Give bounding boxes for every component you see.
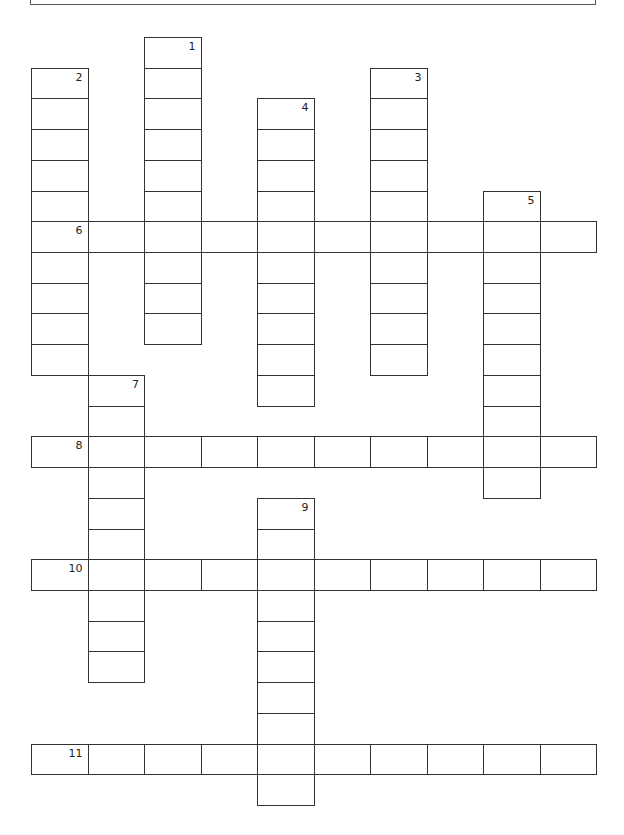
crossword-cell[interactable]	[483, 559, 541, 591]
crossword-cell[interactable]	[483, 406, 541, 438]
crossword-cell[interactable]	[257, 651, 315, 683]
crossword-cell[interactable]	[144, 129, 202, 161]
crossword-cell[interactable]	[370, 313, 428, 345]
crossword-cell[interactable]	[144, 68, 202, 100]
crossword-cell[interactable]	[257, 221, 315, 253]
crossword-cell[interactable]	[257, 774, 315, 806]
crossword-cell[interactable]	[144, 744, 202, 776]
crossword-cell[interactable]	[88, 406, 146, 438]
crossword-cell[interactable]	[314, 559, 372, 591]
crossword-cell[interactable]	[257, 713, 315, 745]
crossword-cell[interactable]	[257, 590, 315, 622]
crossword-cell[interactable]	[257, 744, 315, 776]
crossword-cell[interactable]	[540, 436, 598, 468]
crossword-cell[interactable]	[257, 621, 315, 653]
crossword-cell[interactable]	[88, 559, 146, 591]
crossword-cell[interactable]: 6	[31, 221, 89, 253]
crossword-cell[interactable]	[370, 744, 428, 776]
crossword-cell[interactable]	[540, 559, 598, 591]
crossword-cell[interactable]	[257, 252, 315, 284]
crossword-cell[interactable]	[88, 744, 146, 776]
crossword-cell[interactable]	[370, 283, 428, 315]
crossword-cell[interactable]	[144, 191, 202, 223]
crossword-cell[interactable]	[483, 252, 541, 284]
crossword-cell[interactable]: 2	[31, 68, 89, 100]
crossword-cell[interactable]	[314, 436, 372, 468]
crossword-cell[interactable]	[370, 160, 428, 192]
crossword-cell[interactable]	[88, 221, 146, 253]
crossword-cell[interactable]	[370, 559, 428, 591]
crossword-cell[interactable]	[257, 436, 315, 468]
crossword-cell[interactable]	[483, 283, 541, 315]
crossword-cell[interactable]: 7	[88, 375, 146, 407]
crossword-cell[interactable]	[31, 160, 89, 192]
crossword-cell[interactable]	[257, 313, 315, 345]
crossword-cell[interactable]	[201, 559, 259, 591]
crossword-cell[interactable]	[31, 191, 89, 223]
crossword-cell[interactable]: 8	[31, 436, 89, 468]
crossword-cell[interactable]	[483, 221, 541, 253]
crossword-cell[interactable]	[88, 590, 146, 622]
crossword-cell[interactable]	[88, 651, 146, 683]
crossword-cell[interactable]: 11	[31, 744, 89, 776]
crossword-cell[interactable]	[31, 283, 89, 315]
crossword-cell[interactable]	[370, 221, 428, 253]
crossword-cell[interactable]	[483, 467, 541, 499]
crossword-cell[interactable]	[370, 344, 428, 376]
crossword-cell[interactable]	[370, 436, 428, 468]
crossword-cell[interactable]: 1	[144, 37, 202, 69]
crossword-cell[interactable]	[370, 191, 428, 223]
crossword-cell[interactable]	[201, 744, 259, 776]
crossword-cell[interactable]	[144, 160, 202, 192]
crossword-cell[interactable]: 10	[31, 559, 89, 591]
crossword-cell[interactable]: 5	[483, 191, 541, 223]
crossword-cell[interactable]	[314, 221, 372, 253]
crossword-cell[interactable]: 9	[257, 498, 315, 530]
crossword-cell[interactable]	[257, 283, 315, 315]
crossword-cell[interactable]	[483, 344, 541, 376]
crossword-cell[interactable]: 3	[370, 68, 428, 100]
crossword-cell[interactable]	[31, 252, 89, 284]
crossword-cell[interactable]	[427, 436, 485, 468]
crossword-cell[interactable]	[88, 436, 146, 468]
crossword-cell[interactable]	[370, 129, 428, 161]
crossword-cell[interactable]	[144, 221, 202, 253]
crossword-cell[interactable]	[88, 498, 146, 530]
crossword-cell[interactable]	[144, 559, 202, 591]
crossword-cell[interactable]	[88, 467, 146, 499]
crossword-cell[interactable]	[483, 744, 541, 776]
crossword-cell[interactable]	[540, 744, 598, 776]
crossword-cell[interactable]	[540, 221, 598, 253]
crossword-cell[interactable]	[370, 98, 428, 130]
crossword-cell[interactable]	[257, 129, 315, 161]
crossword-cell[interactable]	[314, 744, 372, 776]
crossword-cell[interactable]	[88, 621, 146, 653]
crossword-cell[interactable]	[144, 283, 202, 315]
crossword-cell[interactable]	[427, 744, 485, 776]
crossword-cell[interactable]	[31, 344, 89, 376]
crossword-cell[interactable]	[370, 252, 428, 284]
crossword-cell[interactable]	[427, 221, 485, 253]
crossword-cell[interactable]	[201, 221, 259, 253]
crossword-cell[interactable]	[483, 313, 541, 345]
crossword-cell[interactable]	[257, 160, 315, 192]
crossword-cell[interactable]	[483, 436, 541, 468]
crossword-cell[interactable]	[144, 252, 202, 284]
crossword-cell[interactable]	[31, 313, 89, 345]
crossword-cell[interactable]	[257, 344, 315, 376]
crossword-cell[interactable]	[257, 559, 315, 591]
crossword-cell[interactable]	[144, 98, 202, 130]
crossword-cell[interactable]	[88, 529, 146, 561]
crossword-cell[interactable]	[31, 98, 89, 130]
crossword-cell[interactable]: 4	[257, 98, 315, 130]
crossword-cell[interactable]	[483, 375, 541, 407]
crossword-cell[interactable]	[201, 436, 259, 468]
crossword-cell[interactable]	[257, 529, 315, 561]
crossword-cell[interactable]	[257, 375, 315, 407]
crossword-cell[interactable]	[257, 682, 315, 714]
crossword-cell[interactable]	[31, 129, 89, 161]
crossword-cell[interactable]	[427, 559, 485, 591]
crossword-cell[interactable]	[144, 436, 202, 468]
crossword-cell[interactable]	[144, 313, 202, 345]
crossword-cell[interactable]	[257, 191, 315, 223]
